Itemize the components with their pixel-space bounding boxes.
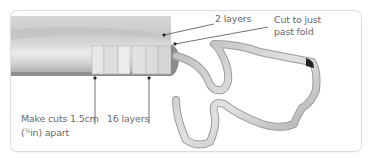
- label-cut-past-fold-line1: Cut to just: [274, 14, 321, 26]
- label-sixteen-layers: 16 layers: [107, 113, 149, 125]
- unit-suffix: in) apart: [30, 127, 69, 138]
- label-cut-past-fold-line2: past fold: [274, 26, 321, 38]
- folded-fabric-roll: [11, 16, 179, 76]
- label-cut-spacing-line2: (⅝in) apart: [21, 125, 99, 139]
- label-cut-past-fold: Cut to just past fold: [274, 14, 321, 38]
- label-cut-spacing-line1: Make cuts 1.5cm: [21, 113, 99, 125]
- label-two-layers: 2 layers: [215, 13, 251, 25]
- fabric-strip-ribbon: [176, 44, 317, 145]
- label-cut-spacing: Make cuts 1.5cm (⅝in) apart: [21, 113, 99, 139]
